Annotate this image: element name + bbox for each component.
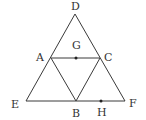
label-D: D [71, 0, 80, 13]
label-F: F [129, 97, 137, 110]
point-H-dot [100, 100, 103, 103]
label-B: B [72, 107, 80, 120]
point-G-dot [75, 57, 78, 60]
label-A: A [35, 51, 45, 64]
segment-CB [76, 58, 100, 101]
segment-AB [51, 58, 76, 101]
label-H: H [97, 106, 107, 119]
label-C: C [104, 51, 112, 64]
label-E: E [11, 98, 19, 111]
label-G: G [72, 39, 81, 52]
geometry-diagram: D A G C E B H F [0, 0, 146, 120]
